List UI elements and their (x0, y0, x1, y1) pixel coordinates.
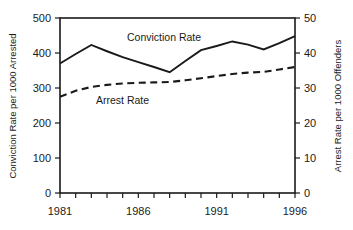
chart-figure: 0100200300400500 01020304050 19811986199… (0, 0, 353, 230)
y-left-tick-label-400: 400 (33, 47, 51, 59)
y-right-tick-label-0: 0 (304, 187, 310, 199)
x-tick-label-1986: 1986 (126, 205, 150, 217)
y-left-tick-label-500: 500 (33, 12, 51, 24)
y-right-tick-label-50: 50 (304, 12, 316, 24)
y-left-tick-label-200: 200 (33, 117, 51, 129)
y-right-tick-label-30: 30 (304, 82, 316, 94)
series-annotation-arrest-rate: Arrest Rate (96, 94, 149, 106)
y-axis-right-title: Arrest Rate per 1000 Offenders (332, 40, 343, 173)
x-axis-tick-labels: 1981198619911996 (48, 205, 307, 217)
y-left-tick-label-0: 0 (45, 187, 51, 199)
y-left-tick-label-100: 100 (33, 152, 51, 164)
y-right-tick-label-40: 40 (304, 47, 316, 59)
y-right-tick-label-20: 20 (304, 117, 316, 129)
x-tick-label-1981: 1981 (48, 205, 72, 217)
y-right-tick-label-10: 10 (304, 152, 316, 164)
chart-canvas: 0100200300400500 01020304050 19811986199… (0, 0, 353, 230)
y-left-tick-label-300: 300 (33, 82, 51, 94)
series-line-arrest-rate (60, 67, 295, 97)
y-axis-right-tick-labels: 01020304050 (304, 12, 316, 199)
x-tick-label-1996: 1996 (283, 205, 307, 217)
x-tick-label-1991: 1991 (204, 205, 228, 217)
y-axis-left-tick-labels: 0100200300400500 (33, 12, 51, 199)
y-axis-left-title: Conviction Rate per 1000 Arrested (7, 33, 18, 178)
series-annotation-conviction-rate: Conviction Rate (127, 31, 201, 43)
